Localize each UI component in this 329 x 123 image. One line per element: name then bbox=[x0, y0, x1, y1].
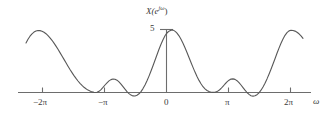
x-tick-label--2pi: −2π bbox=[33, 97, 47, 107]
x-tick-label-2pi: 2π bbox=[284, 97, 293, 107]
fn-label-prefix: X(e bbox=[146, 6, 159, 16]
x-axis-name-label: ω bbox=[313, 96, 319, 106]
x-tick-label--pi: −π bbox=[98, 97, 108, 107]
x-tick-label-pi: π bbox=[225, 97, 230, 107]
peak-value-label: 5 bbox=[150, 23, 155, 33]
dirichlet-curve bbox=[26, 30, 303, 96]
curve-name-label: X(ejω) bbox=[146, 6, 167, 16]
x-tick-label-0: 0 bbox=[164, 97, 169, 107]
figure-container: X(ejω) 5 −2π −π 0 π 2π ω bbox=[0, 0, 329, 123]
fn-label-suffix: ) bbox=[164, 6, 167, 16]
